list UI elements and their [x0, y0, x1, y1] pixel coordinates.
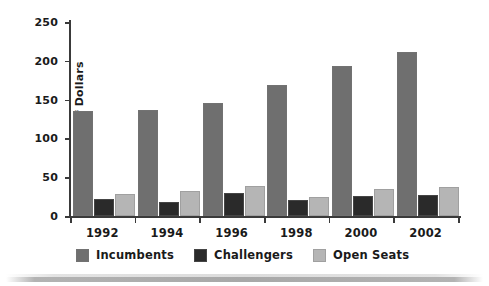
bar-group-1992	[73, 22, 135, 216]
bar-incumbents-2000	[332, 66, 352, 216]
y-tick-label: 150	[34, 93, 58, 106]
legend-label: Challengers	[214, 248, 293, 262]
y-tick-label: 50	[42, 171, 58, 184]
bar-open-seats-1998	[309, 197, 329, 216]
x-tick-mark	[329, 217, 331, 223]
bar-group-1996	[203, 22, 265, 216]
x-tick-label-2002: 2002	[409, 226, 442, 240]
bar-challengers-1994	[159, 202, 179, 216]
bar-incumbents-1996	[203, 103, 223, 216]
legend-swatch-icon	[313, 249, 326, 262]
bar-group-2000	[332, 22, 394, 216]
y-tick-label: 0	[50, 210, 58, 223]
y-tick-label: 100	[34, 132, 58, 145]
x-tick-mark	[458, 217, 460, 223]
chart-legend: IncumbentsChallengersOpen Seats	[76, 248, 409, 262]
legend-label: Open Seats	[333, 248, 409, 262]
legend-item-incumbents: Incumbents	[76, 248, 174, 262]
footer-band	[6, 277, 483, 282]
legend-swatch-icon	[76, 249, 89, 262]
bar-open-seats-1994	[180, 191, 200, 216]
x-tick-mark	[264, 217, 266, 223]
bar-open-seats-1992	[115, 194, 135, 217]
bar-challengers-1996	[224, 193, 244, 216]
legend-item-open-seats: Open Seats	[313, 248, 409, 262]
bar-chart-figure: Millions of Dollars 050100150200250 1992…	[0, 0, 489, 286]
x-tick-label-1994: 1994	[151, 226, 184, 240]
bar-group-1994	[138, 22, 200, 216]
plot-area	[70, 22, 458, 216]
x-tick-label-2000: 2000	[345, 226, 378, 240]
x-tick-mark	[393, 217, 395, 223]
bar-incumbents-1992	[73, 111, 93, 216]
y-tick-label: 250	[34, 16, 58, 29]
y-tick-label: 200	[34, 54, 58, 67]
bar-open-seats-2000	[374, 189, 394, 216]
bar-incumbents-1994	[138, 110, 158, 216]
bar-challengers-2000	[353, 196, 373, 216]
x-tick-label-1992: 1992	[86, 226, 119, 240]
legend-label: Incumbents	[96, 248, 174, 262]
bar-incumbents-1998	[267, 85, 287, 216]
bar-group-2002	[397, 22, 459, 216]
bar-challengers-1992	[94, 199, 114, 216]
legend-item-challengers: Challengers	[194, 248, 293, 262]
x-tick-mark	[199, 217, 201, 223]
x-tick-mark	[70, 217, 72, 223]
bar-challengers-1998	[288, 200, 308, 216]
x-tick-mark	[135, 217, 137, 223]
legend-swatch-icon	[194, 249, 207, 262]
bar-challengers-2002	[418, 195, 438, 216]
x-tick-label-1996: 1996	[215, 226, 248, 240]
bar-group-1998	[267, 22, 329, 216]
bar-open-seats-1996	[245, 186, 265, 216]
bar-open-seats-2002	[439, 187, 459, 216]
bar-incumbents-2002	[397, 52, 417, 217]
x-tick-label-1998: 1998	[280, 226, 313, 240]
y-axis-title-host: Millions of Dollars	[0, 22, 50, 216]
